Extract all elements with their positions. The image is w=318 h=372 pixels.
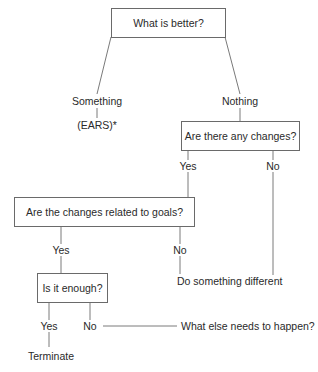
enough-question-text: Is it enough?: [42, 282, 102, 294]
changes-question-box: Are there any changes?: [181, 121, 300, 151]
goals-yes-label: Yes: [51, 244, 70, 256]
changes-no-label: No: [265, 160, 280, 172]
changes-question-text: Are there any changes?: [185, 130, 297, 142]
goals-no-label: No: [172, 244, 187, 256]
nothing-label: Nothing: [221, 95, 259, 107]
ears-label: (EARS)*: [76, 119, 118, 131]
enough-yes-label: Yes: [39, 320, 58, 332]
goals-question-text: Are the changes related to goals?: [26, 206, 183, 218]
changes-yes-label: Yes: [178, 160, 197, 172]
enough-no-label: No: [82, 320, 97, 332]
connector-lines: [0, 0, 318, 372]
goals-question-box: Are the changes related to goals?: [14, 197, 195, 227]
enough-question-box: Is it enough?: [37, 273, 108, 303]
terminate-label: Terminate: [27, 350, 75, 362]
what-else-label: What else needs to happen?: [180, 320, 316, 332]
something-label: Something: [71, 95, 123, 107]
root-question-text: What is better?: [133, 17, 204, 29]
decision-flowchart: What is better? Something (EARS)* Nothin…: [0, 0, 318, 372]
root-question-box: What is better?: [111, 8, 226, 38]
do-something-different-label: Do something different: [176, 275, 283, 287]
